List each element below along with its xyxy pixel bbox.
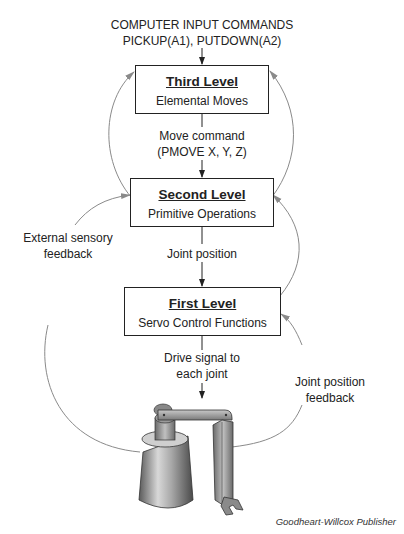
joint-position-feedback-label-2: feedback (270, 390, 390, 406)
external-sensory-feedback-label-2: feedback (8, 246, 128, 262)
first-level-title: First Level (125, 295, 280, 312)
robot-arm-illustration (139, 404, 243, 515)
external-sensory-feedback-arc (45, 325, 140, 452)
second-level-subtitle: Primitive Operations (131, 207, 273, 222)
drive-signal-label: Drive signal to (0, 350, 404, 366)
joint-position-feedback-arc-bottom (232, 405, 302, 447)
third-level-title: Third Level (136, 73, 268, 90)
joint-position-feedback-label-1: Joint position (270, 374, 390, 390)
publisher-credit: Goodheart-Willcox Publisher (276, 516, 396, 527)
input-commands-line1: COMPUTER INPUT COMMANDS (0, 17, 404, 33)
move-command-label: Move command (0, 128, 404, 144)
external-sensory-feedback-label-1: External sensory (8, 230, 128, 246)
joint-position-feedback-arc-top (281, 314, 302, 345)
first-level-subtitle: Servo Control Functions (125, 316, 280, 331)
first-level-box: First Level Servo Control Functions (124, 287, 281, 336)
second-level-title: Second Level (131, 186, 273, 203)
move-command-detail: (PMOVE X, Y, Z) (0, 144, 404, 160)
external-sensory-feedback-arc-top (75, 195, 130, 225)
third-level-box: Third Level Elemental Moves (135, 65, 269, 114)
input-commands-line2: PICKUP(A1), PUTDOWN(A2) (0, 33, 404, 49)
third-level-subtitle: Elemental Moves (136, 94, 268, 109)
second-level-box: Second Level Primitive Operations (130, 178, 274, 227)
hierarchical-control-diagram: COMPUTER INPUT COMMANDS PICKUP(A1), PUTD… (0, 0, 404, 534)
